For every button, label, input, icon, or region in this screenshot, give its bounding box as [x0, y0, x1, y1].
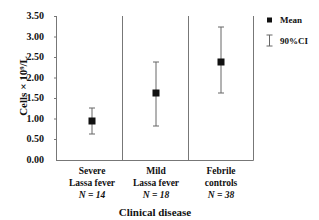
- category-label-line: Severe: [60, 165, 124, 177]
- category-sample-size: N = 14: [60, 189, 124, 201]
- category-label-line: Lassa fever: [60, 177, 124, 189]
- mean-marker-febrile: [218, 59, 225, 66]
- category-label-line: controls: [189, 177, 253, 189]
- mean-marker-mild: [153, 90, 160, 97]
- category-label-line: Mild: [124, 165, 188, 177]
- legend-mean-icon: [267, 18, 272, 23]
- x-axis-title: Clinical disease: [100, 206, 210, 218]
- category-label-line: Lassa fever: [124, 177, 188, 189]
- legend-ci-label: 90%CI: [280, 36, 308, 46]
- legend-mean-label: Mean: [280, 15, 302, 25]
- category-label-severe: Severe Lassa fever N = 14: [60, 165, 124, 201]
- category-sample-size: N = 38: [189, 189, 253, 201]
- mean-marker-severe: [89, 118, 96, 125]
- category-label-febrile: Febrile controls N = 38: [189, 165, 253, 201]
- category-sample-size: N = 18: [124, 189, 188, 201]
- category-label-line: Febrile: [189, 165, 253, 177]
- legend-ci-icon: [267, 35, 273, 46]
- category-label-mild: Mild Lassa fever N = 18: [124, 165, 188, 201]
